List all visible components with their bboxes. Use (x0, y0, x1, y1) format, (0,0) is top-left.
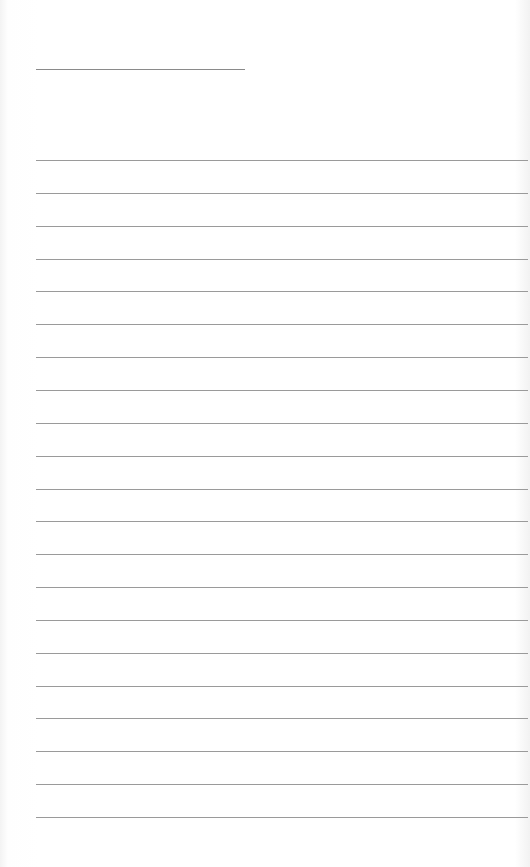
ruled-line (36, 489, 528, 490)
ruled-line (36, 718, 528, 719)
lined-paper-page (0, 0, 530, 867)
ruled-line (36, 554, 528, 555)
ruled-line (36, 390, 528, 391)
ruled-line (36, 160, 528, 161)
ruled-line (36, 357, 528, 358)
ruled-line (36, 653, 528, 654)
ruled-line (36, 620, 528, 621)
ruled-line (36, 291, 528, 292)
ruled-line (36, 324, 528, 325)
ruled-line (36, 259, 528, 260)
title-line (36, 69, 245, 70)
ruled-line (36, 784, 528, 785)
ruled-line (36, 521, 528, 522)
ruled-line (36, 226, 528, 227)
ruled-line (36, 587, 528, 588)
ruled-line (36, 751, 528, 752)
ruled-line (36, 423, 528, 424)
ruled-line (36, 456, 528, 457)
ruled-line (36, 817, 528, 818)
ruled-line (36, 686, 528, 687)
ruled-line (36, 193, 528, 194)
